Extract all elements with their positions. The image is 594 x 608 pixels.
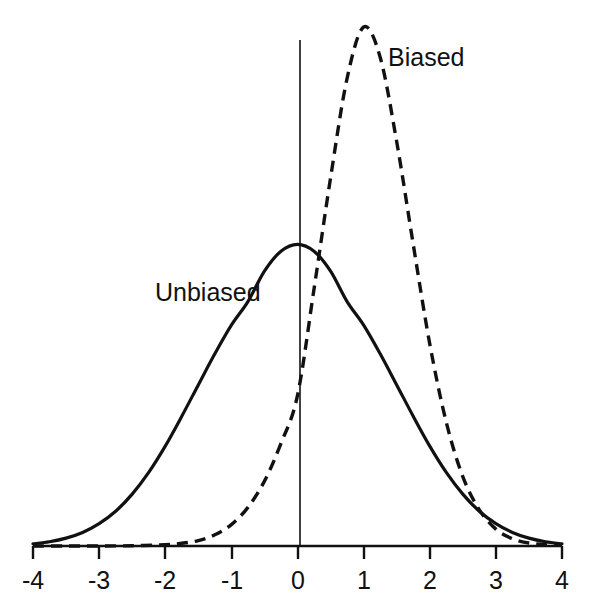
- x-tick-label: -1: [202, 568, 262, 593]
- x-tick-label: 1: [334, 568, 394, 593]
- series-label-biased: Biased: [388, 45, 464, 70]
- chart-canvas: [0, 0, 594, 608]
- x-tick-label: -2: [135, 568, 195, 593]
- series-curve-biased: [33, 27, 562, 546]
- series-label-unbiased: Unbiased: [155, 280, 261, 305]
- figure-container: Biased Unbiased -4 -3 -2 -1 0 1 2 3 4: [0, 0, 594, 608]
- x-tick-label: 2: [400, 568, 460, 593]
- x-tick-label: 4: [532, 568, 592, 593]
- x-tick-label: 3: [466, 568, 526, 593]
- x-tick-label: -4: [3, 568, 63, 593]
- x-axis-tick-marks: [33, 546, 562, 559]
- x-tick-label: 0: [268, 568, 328, 593]
- x-tick-label: -3: [69, 568, 129, 593]
